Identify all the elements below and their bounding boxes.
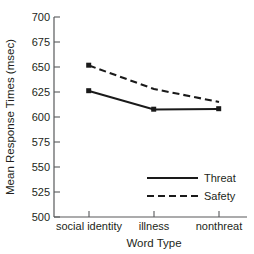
legend-entry-threat: Threat	[147, 172, 236, 184]
y-tick-label: 675	[32, 36, 50, 48]
line-chart: 700 675 650 625 600 575 550 525 500 Mean…	[0, 0, 254, 254]
data-point-marker	[86, 88, 91, 93]
y-tick-label: 550	[32, 161, 50, 173]
series-markers-safety	[86, 63, 91, 68]
x-tick-label-nonthreat: nonthreat	[196, 220, 242, 232]
y-tick-label: 575	[32, 136, 50, 148]
data-point-marker	[151, 107, 156, 112]
y-axis-title: Mean Response Times (msec)	[4, 39, 16, 195]
chart-canvas: 700 675 650 625 600 575 550 525 500 Mean…	[0, 0, 254, 254]
y-tick-label: 625	[32, 86, 50, 98]
x-axis-tick-labels: social identity illness nonthreat	[56, 220, 242, 232]
legend-label-threat: Threat	[204, 172, 236, 184]
data-point-marker	[86, 63, 91, 68]
x-axis-title: Word Type	[126, 237, 181, 249]
data-point-marker	[216, 106, 221, 111]
x-tick-label-illness: illness	[139, 220, 170, 232]
y-tick-label: 525	[32, 186, 50, 198]
y-tick-label: 500	[32, 211, 50, 223]
x-tick-label-social-identity: social identity	[56, 220, 123, 232]
legend-label-safety: Safety	[204, 190, 236, 202]
y-axis-ticks	[54, 17, 60, 217]
y-axis-tick-labels: 700 675 650 625 600 575 550 525 500	[32, 11, 50, 223]
y-tick-label: 600	[32, 111, 50, 123]
legend-entry-safety: Safety	[147, 190, 236, 202]
legend: Threat Safety	[147, 172, 236, 202]
y-tick-label: 700	[32, 11, 50, 23]
x-axis-ticks	[89, 211, 219, 217]
y-tick-label: 650	[32, 61, 50, 73]
